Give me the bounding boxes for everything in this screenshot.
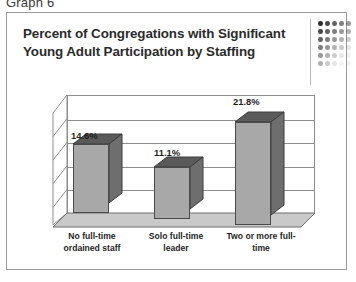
decoration-divider — [310, 19, 311, 85]
bar-no-full-time-ordained-staff[interactable] — [73, 144, 109, 213]
dot-matrix-decoration-icon — [318, 21, 353, 69]
chart-card: Percent of Congregations with Significan… — [6, 12, 347, 270]
category-label-2: Solo full-time leader — [139, 231, 213, 254]
bar-label-1: 14.6% — [71, 130, 98, 141]
chart-title: Percent of Congregations with Significan… — [23, 25, 303, 60]
bar-label-3: 21.8% — [233, 96, 260, 107]
chart-plot-area: 14.6% 11.1% 21.8% No full-time ordained … — [21, 89, 333, 261]
bar-label-2: 11.1% — [154, 147, 180, 158]
bar-solo-full-time-leader[interactable] — [154, 167, 190, 219]
graph-caption: Graph 6 — [6, 0, 54, 10]
category-label-1: No full-time ordained staff — [54, 231, 130, 254]
bar-two-or-more-full-time[interactable] — [235, 122, 271, 225]
category-label-3: Two or more full-time — [220, 231, 302, 254]
